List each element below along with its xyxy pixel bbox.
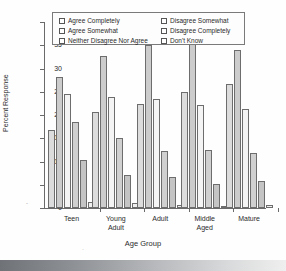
bar [189, 44, 196, 208]
legend-swatch-icon [59, 18, 65, 24]
x-tick [189, 208, 190, 212]
legend-item: Disagree Somewhat [161, 16, 230, 25]
legend-column-right: Disagree SomewhatDisagree CompletelyDon'… [161, 16, 230, 46]
legend-item: Don't Know [161, 36, 230, 45]
bar [181, 92, 188, 208]
legend-swatch-icon [59, 28, 65, 34]
bar [213, 184, 220, 208]
bar [169, 177, 176, 208]
bar-group [181, 22, 229, 208]
bar [234, 50, 241, 208]
bar-group [48, 22, 96, 208]
bar [266, 205, 273, 208]
legend-swatch-icon [59, 38, 65, 44]
bar [137, 104, 144, 208]
chart-figure: 0510152025303540 Percent Response TeenYo… [0, 0, 286, 260]
bar [72, 122, 79, 208]
bar [242, 109, 249, 208]
bar [48, 130, 55, 208]
bar-group [137, 22, 185, 208]
x-axis-title: Age Group [0, 239, 286, 248]
legend-label: Disagree Completely [170, 27, 230, 34]
legend-swatch-icon [161, 18, 167, 24]
legend-column-left: Agree CompletelyAgree SomewhatNeither Di… [59, 16, 148, 46]
bar-group [92, 22, 140, 208]
bar [92, 112, 99, 208]
legend-label: Don't Know [170, 37, 203, 44]
bar [153, 99, 160, 208]
bar [205, 150, 212, 208]
bar [145, 45, 152, 208]
legend-swatch-icon [161, 28, 167, 34]
bar [100, 56, 107, 208]
bar [108, 97, 115, 208]
legend-label: Agree Completely [68, 17, 120, 24]
x-tick [233, 208, 234, 212]
bar [64, 94, 71, 208]
x-tick [100, 208, 101, 212]
bar [80, 160, 87, 208]
legend: Agree CompletelyAgree SomewhatNeither Di… [52, 12, 245, 45]
x-tick [144, 208, 145, 212]
bar [124, 175, 131, 208]
bar [250, 153, 257, 208]
bar-group [226, 22, 274, 208]
bottom-gradient-bar [0, 260, 286, 271]
y-axis-title: Percent Response [2, 74, 9, 132]
legend-item: Agree Completely [59, 16, 148, 25]
stray-mark-2: · [82, 246, 84, 252]
bar [197, 105, 204, 208]
legend-label: Neither Disagree Nor Agree [68, 37, 148, 44]
legend-label: Disagree Somewhat [170, 17, 229, 24]
bar [116, 138, 123, 208]
plot-area [44, 22, 266, 208]
bar [161, 151, 168, 208]
legend-item: Disagree Completely [161, 26, 230, 35]
legend-swatch-icon [161, 38, 167, 44]
stray-mark: - [26, 200, 28, 206]
x-tick [278, 208, 279, 212]
legend-item: Agree Somewhat [59, 26, 148, 35]
legend-label: Agree Somewhat [68, 27, 118, 34]
bar [56, 77, 63, 208]
x-category-label: Mature [217, 214, 282, 223]
bar [226, 84, 233, 208]
legend-item: Neither Disagree Nor Agree [59, 36, 148, 45]
bar [258, 181, 265, 208]
